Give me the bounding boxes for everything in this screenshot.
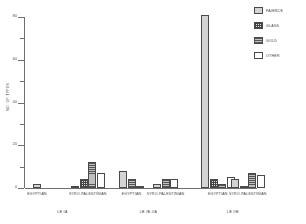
legend-item[interactable]: GLASS [254,18,304,33]
legend-label: GLASS [266,24,279,28]
legend-item[interactable]: FAIENCE [254,3,304,18]
bar [88,162,96,188]
bar [80,179,88,188]
y-tick-10 [20,167,24,168]
legend-label: FAIENCE [266,9,283,13]
bar [248,173,256,188]
bar [201,15,209,188]
legend-swatch-empty-white-icon [254,52,263,59]
y-tick-0 [18,188,24,189]
legend-item[interactable]: GOLD [254,33,304,48]
legend-swatch-horizontal-lines-icon [254,37,263,44]
bar [231,179,239,188]
y-tick-30 [20,124,24,125]
x-tick-label: SYRO-PALESTINIAN [136,192,196,196]
plot-area [25,17,257,188]
bar [210,179,218,188]
legend-label: GOLD [266,39,277,43]
y-tick-50 [20,81,24,82]
legend-item[interactable]: OTHER [254,48,304,63]
bar [162,179,170,188]
x-tick-label: SYRO-PALESTINIAN [218,192,278,196]
legend-label: OTHER [266,54,280,58]
y-tick-80 [18,17,24,18]
bar-chart: NO. OF TYPES 020406080 EGYPTIANSYRO-PALE… [0,0,306,224]
bar [170,179,178,188]
bar [119,171,127,188]
y-tick-label-60: 60 [2,58,17,62]
y-tick-20 [18,145,24,146]
group-label: LB IIB [203,210,263,214]
y-tick-label-80: 80 [2,15,17,19]
bar [257,175,265,188]
y-axis-title: NO. OF TYPES [7,77,11,117]
bar [128,179,136,188]
y-tick-label-0: 0 [2,186,17,190]
y-tick-40 [18,103,24,104]
y-tick-label-40: 40 [2,101,17,105]
y-tick-60 [18,60,24,61]
bar [97,173,105,188]
x-axis-line [25,188,257,189]
legend-swatch-cross-hatch-dots-icon [254,22,263,29]
y-tick-label-20: 20 [2,143,17,147]
y-tick-70 [20,38,24,39]
legend-swatch-solid-gray-icon [254,7,263,14]
chart-legend: FAIENCEGLASSGOLDOTHER [254,3,304,63]
group-label: LB IB-IIA [119,210,179,214]
group-label: LB IA [32,210,92,214]
